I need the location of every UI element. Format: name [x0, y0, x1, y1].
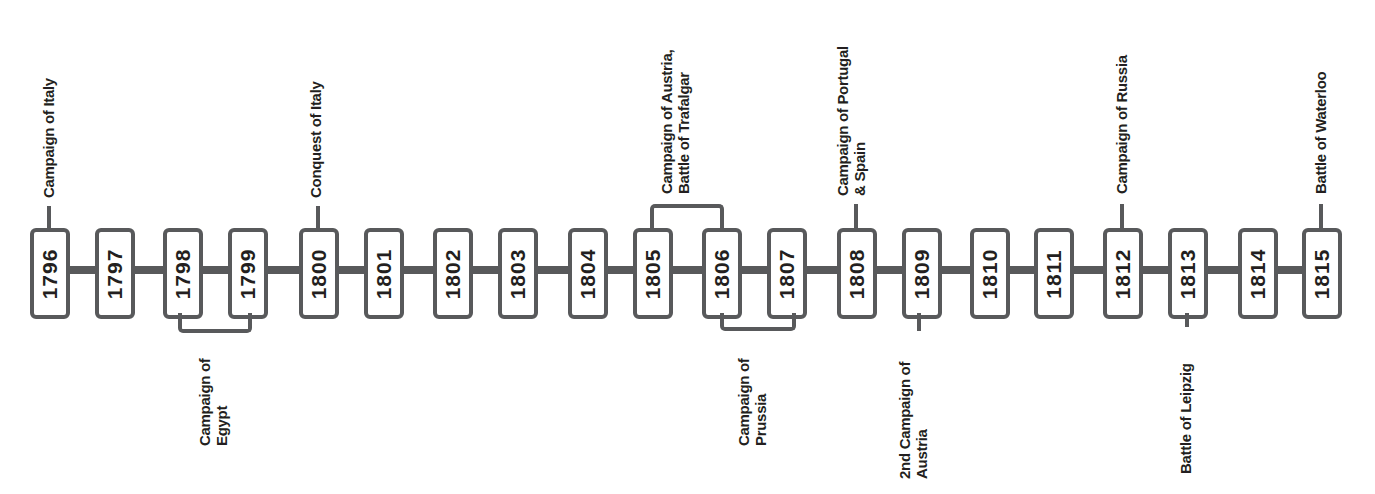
year-box-1800: 1800	[299, 228, 339, 319]
year-box-1810: 1810	[970, 228, 1010, 319]
event-second-campaign-austria: 2nd Campaign of Austria	[896, 362, 930, 479]
event-campaign-portugal-spain: Campaign of Portugal & Spain	[834, 46, 868, 196]
event-battle-waterloo: Battle of Waterloo	[1312, 72, 1329, 194]
year-box-1797: 1797	[95, 228, 135, 319]
year-label: 1806	[710, 248, 734, 299]
year-label: 1802	[441, 248, 465, 299]
year-box-1799: 1799	[228, 228, 268, 319]
connector-campaign-portugal-spain	[854, 204, 858, 230]
year-box-1812: 1812	[1103, 228, 1143, 319]
year-box-1802: 1802	[433, 228, 473, 319]
year-label: 1798	[171, 248, 195, 299]
year-label: 1799	[236, 248, 260, 299]
year-label: 1804	[576, 248, 600, 299]
year-label: 1808	[845, 248, 869, 299]
connector-conquest-italy	[316, 206, 320, 230]
year-box-1806: 1806	[702, 228, 742, 319]
year-box-1815: 1815	[1302, 228, 1342, 319]
event-campaign-russia: Campaign of Russia	[1113, 55, 1130, 194]
bracket-campaign-austria-trafalgar	[650, 204, 724, 230]
year-box-1808: 1808	[837, 228, 877, 319]
bracket-campaign-prussia	[720, 313, 796, 331]
year-label: 1814	[1246, 248, 1270, 299]
event-campaign-egypt: Campaign of Egypt	[196, 358, 230, 446]
year-box-1813: 1813	[1168, 228, 1208, 319]
year-box-1798: 1798	[163, 228, 203, 319]
connector-second-campaign-austria	[917, 313, 921, 331]
year-box-1803: 1803	[498, 228, 538, 319]
year-label: 1807	[775, 248, 799, 299]
timeline-diagram: 1796 1797 1798 1799 1800 1801 1802 1803 …	[0, 0, 1375, 494]
year-box-1801: 1801	[364, 228, 404, 319]
year-box-1807: 1807	[767, 228, 807, 319]
year-box-1796: 1796	[30, 228, 70, 319]
year-label: 1800	[307, 248, 331, 299]
year-label: 1815	[1310, 248, 1334, 299]
connector-campaign-russia	[1120, 204, 1124, 230]
connector-campaign-italy	[47, 206, 51, 230]
year-label: 1805	[641, 248, 665, 299]
year-label: 1801	[372, 248, 396, 299]
year-label: 1812	[1111, 248, 1135, 299]
year-label: 1796	[38, 248, 62, 299]
event-campaign-italy: Campaign of Italy	[40, 78, 57, 198]
event-campaign-prussia: Campaign of Prussia	[735, 358, 769, 446]
year-label: 1809	[910, 248, 934, 299]
year-label: 1811	[1042, 249, 1066, 299]
year-label: 1797	[103, 248, 127, 299]
event-campaign-austria-trafalgar: Campaign of Austria, Battle of Trafalgar	[658, 50, 692, 194]
year-label: 1803	[506, 248, 530, 299]
year-box-1811: 1811	[1034, 228, 1074, 319]
year-box-1805: 1805	[633, 228, 673, 319]
year-label: 1810	[978, 248, 1002, 299]
year-box-1804: 1804	[568, 228, 608, 319]
connector-battle-waterloo	[1319, 204, 1323, 230]
connector-battle-leipzig	[1185, 313, 1189, 327]
year-box-1809: 1809	[902, 228, 942, 319]
event-battle-leipzig: Battle of Leipzig	[1177, 363, 1194, 474]
year-label: 1813	[1176, 248, 1200, 299]
year-box-1814: 1814	[1238, 228, 1278, 319]
bracket-campaign-egypt	[178, 313, 252, 333]
event-conquest-italy: Conquest of Italy	[307, 81, 324, 198]
